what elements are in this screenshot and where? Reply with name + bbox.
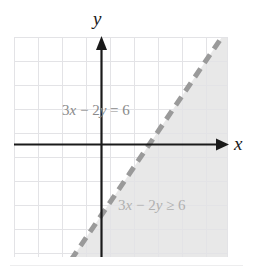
inequality-label: 3x − 2y ≥ 6 xyxy=(118,198,186,213)
equation-minus: − xyxy=(80,102,88,118)
x-axis-label: x xyxy=(234,134,242,153)
equation-relation: = xyxy=(110,102,118,118)
inequality-constant: 6 xyxy=(178,197,186,213)
inequality-minus: − xyxy=(136,197,144,213)
graph-canvas xyxy=(0,0,253,267)
inequality-var-x: x xyxy=(126,197,133,213)
equation-label: 3x − 2y = 6 xyxy=(62,103,130,118)
y-axis-label: y xyxy=(93,9,101,28)
inequality-coef-y: 2 xyxy=(148,197,156,213)
inequality-graph-figure: Graph of the linear inequality 3x - 2y >… xyxy=(0,0,253,267)
equation-coef-y: 2 xyxy=(92,102,100,118)
equation-var-y: y xyxy=(100,102,107,118)
inequality-relation: ≥ xyxy=(166,197,174,213)
inequality-coef-x: 3 xyxy=(118,197,126,213)
equation-coef-x: 3 xyxy=(62,102,70,118)
equation-constant: 6 xyxy=(122,102,130,118)
inequality-var-y: y xyxy=(156,197,163,213)
equation-var-x: x xyxy=(70,102,77,118)
